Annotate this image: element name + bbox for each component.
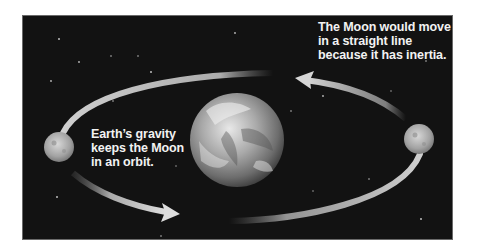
caption-gravity-line: in an orbit.	[91, 155, 184, 169]
moon-left	[44, 132, 74, 162]
caption-inertia-line: because it has inertia.	[318, 48, 451, 62]
arrow-bottom	[73, 173, 180, 222]
caption-inertia: The Moon would move in a straight line b…	[318, 20, 451, 62]
arrow-top	[295, 71, 406, 119]
caption-inertia-line: The Moon would move	[318, 20, 451, 34]
earth	[190, 93, 284, 187]
caption-gravity-line: keeps the Moon	[91, 141, 184, 155]
caption-inertia-line: in a straight line	[318, 34, 451, 48]
moon-right	[404, 124, 434, 154]
caption-gravity-line: Earth’s gravity	[91, 127, 184, 141]
caption-gravity: Earth’s gravity keeps the Moon in an orb…	[91, 127, 184, 169]
